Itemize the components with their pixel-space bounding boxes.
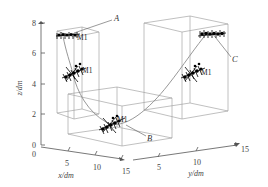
x-tick-5: [68, 147, 70, 151]
marker-label-m1-a: M1: [77, 33, 88, 42]
figure-3d-trajectory-plot: 8 6 4 2 0 0 5 10 15 5 10 15 z/dm x/dm y/…: [0, 0, 268, 187]
x-axis-title: x/dm: [57, 171, 74, 180]
axis-y: [133, 142, 240, 160]
x-ticklabel-0: 0: [32, 150, 36, 159]
marker-label-m1-mid: M1: [82, 66, 93, 75]
leader-lines: [74, 20, 231, 136]
x-ticklabel-15: 15: [122, 167, 130, 176]
workspace-box-right: [144, 16, 228, 119]
annotation-point-b: B: [147, 133, 152, 143]
z-ticklabel-4: 4: [32, 80, 36, 89]
z-axis-title: z/dm: [15, 80, 24, 96]
annotation-point-c: C: [232, 54, 238, 64]
z-ticklabel-6: 6: [32, 49, 36, 58]
leader-a: [74, 20, 112, 33]
x-tick-15: [121, 155, 123, 159]
marker-label-m1-c: M1: [201, 68, 212, 77]
z-ticklabel-8: 8: [32, 19, 36, 28]
annotation-point-a: A: [113, 13, 120, 23]
y-ticklabel-15: 15: [241, 145, 249, 154]
marker-cluster-c: [198, 30, 226, 38]
y-axis-title: y/dm: [187, 169, 204, 178]
y-axis-line: [133, 145, 237, 160]
marker-label-m1-b: M1: [117, 115, 128, 124]
plot-canvas: 8 6 4 2 0 0 5 10 15 5 10 15 z/dm x/dm y/…: [0, 0, 268, 187]
x-tick-10: [95, 151, 97, 155]
z-ticklabel-2: 2: [32, 110, 36, 119]
x-ticklabel-5: 5: [65, 159, 69, 168]
leader-b: [126, 125, 146, 136]
z-ticklabel-0: 0: [32, 141, 36, 150]
y-ticklabel-10: 10: [193, 158, 201, 167]
y-ticklabel-5: 5: [157, 163, 161, 172]
x-axis-line: [41, 147, 122, 159]
axis-x: [41, 147, 125, 161]
x-ticklabel-10: 10: [93, 163, 101, 172]
axis-z: [38, 21, 45, 145]
